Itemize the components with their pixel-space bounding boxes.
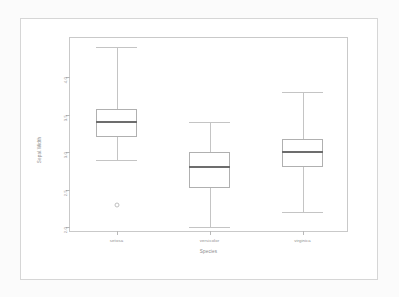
x-tick-mark-versicolor bbox=[210, 231, 211, 235]
image-frame: Sepal.Width 2.02.53.03.54.0 setosaversic… bbox=[20, 18, 378, 280]
whisker-lower bbox=[303, 167, 304, 212]
y-tick-label: 3.5 bbox=[63, 115, 68, 121]
box-iqr[interactable] bbox=[282, 139, 323, 167]
y-tick-label: 4.0 bbox=[63, 77, 68, 83]
x-tick-label-versicolor: versicolor bbox=[200, 238, 219, 243]
x-tick-label-setosa: setosa bbox=[110, 238, 123, 243]
x-tick-mark-setosa bbox=[117, 231, 118, 235]
median-line bbox=[282, 151, 323, 153]
y-axis-title: Sepal.Width bbox=[37, 137, 42, 163]
screenshot-root: Sepal.Width 2.02.53.03.54.0 setosaversic… bbox=[0, 0, 399, 297]
x-tick-mark-virginica bbox=[303, 231, 304, 235]
y-tick-label: 2.0 bbox=[63, 227, 68, 233]
y-tick-label: 3.0 bbox=[63, 152, 68, 158]
y-tick-label: 2.5 bbox=[63, 190, 68, 196]
plot-panel-inner: 2.02.53.03.54.0 setosaversicolorvirginic… bbox=[70, 38, 347, 231]
cap-lower bbox=[282, 212, 323, 213]
whisker-upper bbox=[303, 92, 304, 139]
x-tick-label-virginica: virginica bbox=[294, 238, 311, 243]
boxplot-figure: Sepal.Width 2.02.53.03.54.0 setosaversic… bbox=[21, 19, 379, 281]
cap-upper bbox=[282, 92, 323, 93]
box-group-virginica[interactable] bbox=[70, 38, 349, 231]
plot-panel: 2.02.53.03.54.0 setosaversicolorvirginic… bbox=[69, 37, 348, 232]
x-axis-title: Species bbox=[200, 249, 217, 254]
